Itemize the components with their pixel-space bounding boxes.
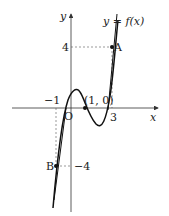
curve-label: y = f(x) [102, 15, 144, 28]
origin-label: O [64, 110, 73, 123]
y-axis-label: y [59, 10, 67, 23]
cubic-graph-figure: y = f(x) y x O A B (1, 0) −1 3 4 −4 [0, 0, 169, 216]
x-axis-label: x [150, 111, 157, 124]
point-a-label: A [113, 41, 123, 54]
point-c-label: (1, 0) [84, 94, 114, 107]
tick-x-neg1: −1 [44, 94, 60, 107]
tick-y-4: 4 [62, 41, 69, 54]
tick-x-3: 3 [110, 111, 117, 124]
point-b-label: B [46, 160, 54, 173]
point-b [54, 164, 58, 168]
tick-y-neg4: −4 [74, 160, 90, 173]
